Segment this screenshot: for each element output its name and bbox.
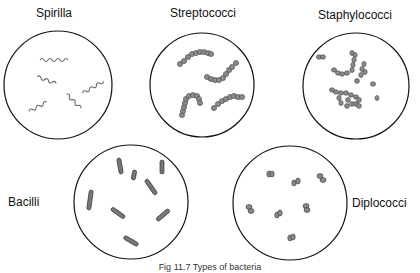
spirilla-cells — [28, 59, 104, 113]
staphylococci-cells — [316, 50, 379, 108]
streptococci-circle — [150, 33, 254, 137]
bacteria-diagram — [0, 0, 420, 273]
streptococci-cells — [177, 49, 244, 117]
spirilla-circle — [4, 31, 112, 139]
figure-caption: Fig 11.7 Types of bacteria — [0, 262, 420, 272]
bacilli-cells — [87, 158, 171, 247]
diplococci-cells — [246, 171, 326, 241]
diplococci-circle — [233, 146, 347, 260]
staphylococci-circle — [303, 33, 409, 139]
